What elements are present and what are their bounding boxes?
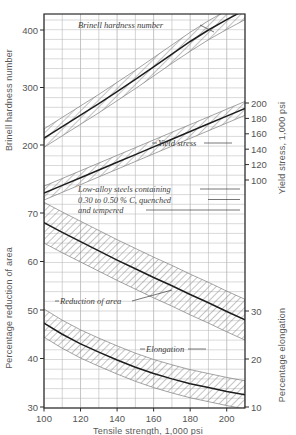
right-bottom-tick-label: 30 xyxy=(251,306,262,317)
left-bottom-tick-label: 60 xyxy=(27,256,38,267)
x-tick-label: 140 xyxy=(109,413,125,424)
x-tick-label: 200 xyxy=(219,413,235,424)
x-axis-title: Tensile strength, 1,000 psi xyxy=(93,426,203,435)
annotation-line: Low-alloy steels containing xyxy=(77,185,171,194)
right-top-tick-label: 200 xyxy=(251,98,267,109)
curve-label-reduction-of-area: Reduction of area xyxy=(59,296,121,306)
left-top-tick-label: 200 xyxy=(22,140,38,151)
x-tick-label: 180 xyxy=(182,413,198,424)
chart-figure: 1001201401601802002003004003040506070100… xyxy=(0,0,296,435)
curve-label-yield-stress: Yield stress xyxy=(158,138,197,148)
left-bottom-tick-label: 40 xyxy=(27,353,38,364)
left-bottom-axis-ticks: 3040506070 xyxy=(27,208,44,413)
chart-canvas: 1001201401601802002003004003040506070100… xyxy=(0,0,296,435)
x-tick-label: 100 xyxy=(36,413,52,424)
annotation-line: and tempered xyxy=(78,206,124,215)
right-bottom-axis-title: Percentage elongation xyxy=(277,308,287,402)
right-bottom-axis-ticks: 102030 xyxy=(245,306,262,413)
left-top-axis-title: Brinell hardness number xyxy=(4,49,14,151)
right-top-tick-label: 100 xyxy=(251,175,267,186)
left-bottom-tick-label: 50 xyxy=(27,305,38,316)
right-top-tick-label: 160 xyxy=(251,128,267,139)
chart-annotation: Low-alloy steels containing0.30 to 0.50 … xyxy=(77,185,240,215)
right-top-axis-ticks: 100120140160180200 xyxy=(245,98,267,186)
x-tick-label: 120 xyxy=(73,413,89,424)
scatter-band xyxy=(44,202,245,340)
curve-label-brinell: Brinell hardness number xyxy=(78,20,164,30)
x-axis-ticks: 100120140160180200 xyxy=(36,408,235,424)
right-top-axis-title: Yield stress, 1,000 psi xyxy=(277,102,287,194)
left-top-tick-label: 300 xyxy=(22,82,38,93)
right-bottom-tick-label: 10 xyxy=(251,402,262,413)
left-top-axis-ticks: 200300400 xyxy=(22,25,44,151)
curve-label-elongation: Elongation xyxy=(145,344,184,354)
right-top-tick-label: 120 xyxy=(251,159,267,170)
left-bottom-axis-title: Percentage reduction of area xyxy=(4,247,14,369)
right-top-tick-label: 180 xyxy=(251,113,267,124)
right-top-tick-label: 140 xyxy=(251,144,267,155)
annotation-line: 0.30 to 0.50 % C, quenched xyxy=(78,196,172,205)
right-bottom-tick-label: 20 xyxy=(251,354,262,365)
series-reduction-of-area xyxy=(44,202,245,340)
x-tick-label: 160 xyxy=(146,413,162,424)
left-top-tick-label: 400 xyxy=(22,25,38,36)
left-bottom-tick-label: 30 xyxy=(27,402,38,413)
left-bottom-tick-label: 70 xyxy=(27,208,38,219)
